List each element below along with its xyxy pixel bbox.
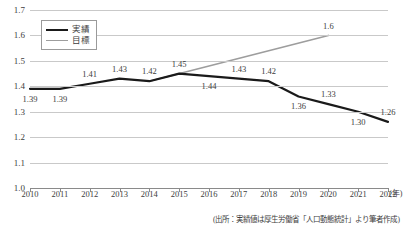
y-tick-label: 1.2 — [14, 133, 25, 142]
actual-value-label: 1.44 — [202, 82, 217, 91]
y-tick-label: 1.7 — [14, 6, 25, 15]
legend-item-target: 目標 — [46, 35, 90, 46]
target-value-label: 1.6 — [323, 22, 334, 31]
x-axis-unit-label: (年) — [389, 190, 402, 198]
gridline — [30, 112, 388, 113]
x-tick-label: 2020 — [320, 190, 337, 199]
x-tick-label: 2015 — [171, 190, 188, 199]
source-note: (出所：実績値は厚生労働省「人口動態統計」より筆者作成) — [213, 216, 400, 224]
x-tick-label: 2018 — [260, 190, 277, 199]
x-tick-label: 2014 — [141, 190, 158, 199]
y-tick-label: 1.1 — [14, 158, 25, 167]
legend-label-target: 目標 — [72, 36, 90, 45]
legend-swatch-target-icon — [46, 40, 68, 41]
x-axis: 2010201120122013201420152016201720182019… — [30, 190, 388, 204]
actual-value-label: 1.42 — [142, 67, 157, 76]
x-tick-label: 2021 — [350, 190, 367, 199]
actual-value-label: 1.42 — [261, 67, 276, 76]
x-tick-label: 2017 — [230, 190, 247, 199]
actual-value-label: 1.45 — [172, 59, 187, 68]
gridline — [30, 10, 388, 11]
actual-value-label: 1.36 — [291, 102, 306, 111]
x-tick-label: 2016 — [201, 190, 218, 199]
actual-value-label: 1.43 — [112, 64, 127, 73]
x-tick-label: 2019 — [290, 190, 307, 199]
x-tick-label: 2010 — [22, 190, 39, 199]
y-tick-label: 1.3 — [14, 107, 25, 116]
legend-label-actual: 実績 — [72, 25, 90, 34]
actual-value-label: 1.30 — [351, 117, 366, 126]
legend-swatch-actual-icon — [46, 29, 68, 31]
legend-item-actual: 実績 — [46, 24, 90, 35]
legend: 実績 目標 — [41, 20, 97, 50]
y-tick-label: 1.5 — [14, 56, 25, 65]
gridline — [30, 137, 388, 138]
actual-value-label: 1.39 — [23, 95, 38, 104]
gridline — [30, 163, 388, 164]
actual-value-label: 1.41 — [82, 69, 97, 78]
actual-value-label: 1.33 — [321, 90, 336, 99]
x-tick-label: 2012 — [81, 190, 98, 199]
chart-container: 1.01.11.21.31.41.51.61.7 1.391.391.411.4… — [0, 0, 407, 227]
x-tick-label: 2013 — [111, 190, 128, 199]
gridline — [30, 61, 388, 62]
actual-value-label: 1.39 — [52, 95, 67, 104]
actual-value-label: 1.26 — [381, 108, 396, 117]
x-tick-label: 2011 — [51, 190, 68, 199]
y-tick-label: 1.6 — [14, 31, 25, 40]
y-tick-label: 1.4 — [14, 82, 25, 91]
actual-value-label: 1.43 — [231, 64, 246, 73]
